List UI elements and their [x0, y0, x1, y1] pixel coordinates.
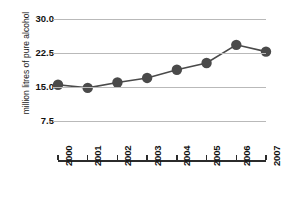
- data-point-marker[interactable]: [201, 58, 211, 68]
- line-chart: million litres of pure alcohol 7.515.022…: [0, 0, 286, 212]
- x-axis-tick-label: 2000: [63, 146, 74, 166]
- x-axis-tick-mark: [57, 155, 59, 160]
- y-axis-tick-labels: 7.515.022.530.0: [18, 0, 54, 212]
- series-line: [58, 45, 266, 88]
- data-point-marker[interactable]: [142, 73, 152, 83]
- y-axis-tick-label: 22.5: [18, 48, 54, 58]
- x-axis-tick-mark: [236, 155, 238, 160]
- x-axis-tick-label: 2003: [152, 146, 163, 166]
- x-axis-tick-label: 2002: [122, 146, 133, 166]
- gridline: [58, 53, 266, 54]
- y-axis-tick-mark: [53, 121, 58, 122]
- x-axis-tick-label: 2005: [211, 146, 222, 166]
- plot-area: [58, 0, 270, 212]
- data-point-marker[interactable]: [172, 65, 182, 75]
- gridline: [58, 19, 266, 20]
- x-axis-tick-label: 2007: [271, 146, 282, 166]
- y-axis-tick-mark: [53, 87, 58, 88]
- data-point-marker[interactable]: [231, 40, 241, 50]
- y-axis-tick-label: 15.0: [18, 82, 54, 92]
- gridline: [58, 121, 266, 122]
- x-axis-tick-mark: [117, 155, 119, 160]
- x-axis-tick-label: 2001: [92, 146, 103, 166]
- data-point-marker[interactable]: [53, 80, 63, 90]
- x-axis-tick-mark: [146, 155, 148, 160]
- x-axis-tick-mark: [176, 155, 178, 160]
- y-axis-tick-label: 30.0: [18, 14, 54, 24]
- gridline: [58, 87, 266, 88]
- data-series: [58, 0, 270, 212]
- data-point-marker[interactable]: [261, 46, 271, 56]
- y-axis-tick-mark: [53, 53, 58, 54]
- x-axis-tick-label: 2004: [181, 146, 192, 166]
- x-axis-tick-label: 2006: [241, 146, 252, 166]
- x-axis-tick-mark: [87, 155, 89, 160]
- x-axis-tick-mark: [206, 155, 208, 160]
- y-axis-tick-label: 7.5: [18, 116, 54, 126]
- y-axis-tick-mark: [53, 19, 58, 20]
- x-axis-tick-mark: [265, 155, 267, 160]
